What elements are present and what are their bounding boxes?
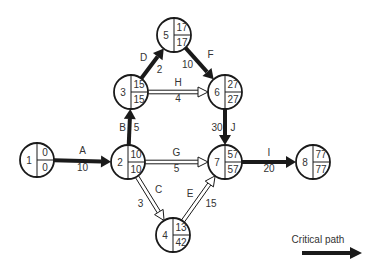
earliest-start: 27 (227, 79, 239, 90)
node-7: 75757 (208, 145, 242, 179)
earliest-start: 57 (227, 149, 239, 160)
node-id: 6 (214, 87, 220, 98)
node-1: 100 (20, 143, 54, 177)
activity-label: B (119, 122, 126, 133)
legend: Critical path (292, 234, 362, 259)
node-id: 2 (117, 157, 123, 168)
activity-label: J (231, 122, 236, 133)
earliest-start: 15 (133, 79, 145, 90)
earliest-start: 10 (130, 149, 142, 160)
latest-start: 57 (227, 164, 239, 175)
edge-A: A10 (54, 145, 111, 173)
node-6: 62727 (208, 75, 242, 109)
edge-B: B5 (119, 109, 140, 145)
duration-label: 3 (138, 198, 144, 209)
activity-label: F (207, 49, 213, 60)
latest-start: 77 (315, 164, 327, 175)
edge-E: E15 (181, 176, 217, 222)
duration-label: 4 (175, 93, 181, 104)
edge-C: C3 (135, 176, 164, 221)
duration-label: 10 (182, 59, 194, 70)
duration-label: 5 (174, 163, 180, 174)
latest-start: 17 (176, 37, 188, 48)
arrowhead-icon (124, 109, 136, 119)
activity-label: E (187, 188, 194, 199)
node-id: 5 (163, 30, 169, 41)
hollow-arrowhead-icon (198, 87, 208, 97)
node-4: 41342 (156, 218, 190, 252)
node-2: 21010 (111, 145, 145, 179)
hollow-arrowhead-icon (198, 157, 208, 167)
arrowhead-icon (286, 156, 296, 168)
latest-start: 15 (133, 94, 145, 105)
earliest-start: 13 (175, 222, 187, 233)
nodes-layer: 10021010315154134251717627277575787777 (20, 18, 330, 252)
arrowhead-icon (101, 155, 111, 167)
edge-H: H4 (148, 77, 208, 104)
activity-label: D (140, 52, 147, 63)
earliest-start: 0 (42, 147, 48, 158)
earliest-start: 17 (176, 22, 188, 33)
edge-I: I20 (242, 147, 296, 174)
duration-label: 30 (211, 122, 223, 133)
activity-label: C (155, 184, 162, 195)
edge-J: J30 (211, 109, 235, 145)
legend-critical-path-label: Critical path (292, 234, 345, 245)
node-8: 87777 (296, 145, 330, 179)
edges-layer: A10B5C3D2E15F10G5H4I20J30 (54, 48, 296, 223)
latest-start: 10 (130, 164, 142, 175)
duration-label: 20 (263, 163, 275, 174)
latest-start: 42 (175, 237, 187, 248)
activity-label: G (173, 147, 181, 158)
network-diagram: A10B5C3D2E15F10G5H4I20J30 10021010315154… (0, 0, 385, 268)
activity-label: I (268, 147, 271, 158)
duration-label: 2 (157, 64, 163, 75)
node-id: 1 (26, 155, 32, 166)
duration-label: 15 (205, 198, 217, 209)
activity-label: H (174, 77, 181, 88)
node-5: 51717 (157, 18, 191, 52)
node-id: 8 (302, 157, 308, 168)
critical-path-arrow-icon (302, 247, 362, 259)
latest-start: 0 (42, 162, 48, 173)
edge-D: D2 (140, 49, 164, 79)
activity-label: A (79, 145, 86, 156)
earliest-start: 77 (315, 149, 327, 160)
duration-label: 10 (77, 162, 89, 173)
node-id: 7 (214, 157, 220, 168)
arrowhead-icon (219, 135, 231, 145)
latest-start: 27 (227, 94, 239, 105)
edge-F: F10 (182, 48, 214, 80)
node-3: 31515 (114, 75, 148, 109)
node-id: 4 (162, 230, 168, 241)
edge-G: G5 (145, 147, 208, 174)
duration-label: 5 (134, 122, 140, 133)
node-id: 3 (120, 87, 126, 98)
